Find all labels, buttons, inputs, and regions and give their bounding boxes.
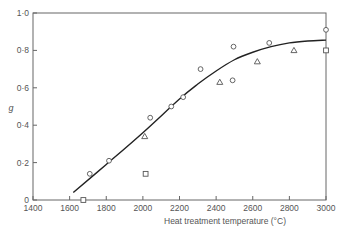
circle-marker bbox=[181, 95, 186, 100]
square-marker bbox=[324, 48, 329, 53]
circle-marker bbox=[169, 104, 174, 109]
triangle-marker bbox=[254, 59, 260, 64]
circle-marker bbox=[198, 67, 203, 72]
triangle-marker bbox=[217, 79, 223, 84]
data-markers bbox=[81, 27, 328, 202]
circle-marker bbox=[324, 27, 329, 32]
fitted-curve bbox=[73, 40, 326, 192]
circle-marker bbox=[231, 44, 236, 49]
circle-marker bbox=[107, 158, 112, 163]
axes bbox=[33, 13, 326, 200]
circle-marker bbox=[148, 115, 153, 120]
circle-marker bbox=[267, 41, 272, 46]
x-axis-label: Heat treatment temperature (°C) bbox=[164, 216, 286, 226]
x-tick-label: 3000 bbox=[317, 203, 336, 213]
y-tick-label: 0 bbox=[24, 195, 29, 205]
y-axis-label: g bbox=[8, 103, 13, 113]
tick-labels: 14001600180020002200240026002800300000·2… bbox=[17, 8, 336, 213]
circle-marker bbox=[230, 78, 235, 83]
x-tick-label: 1800 bbox=[97, 203, 116, 213]
x-tick-label: 2600 bbox=[243, 203, 262, 213]
y-tick-label: 1·0 bbox=[17, 8, 30, 18]
y-tick-label: 0·2 bbox=[17, 158, 30, 168]
triangle-marker bbox=[291, 47, 297, 52]
y-tick-label: 0·4 bbox=[17, 120, 30, 130]
square-marker bbox=[81, 198, 86, 203]
x-tick-label: 2400 bbox=[207, 203, 226, 213]
x-tick-label: 2800 bbox=[280, 203, 299, 213]
fitted-curve-path bbox=[73, 40, 326, 192]
circle-marker bbox=[87, 171, 92, 176]
x-tick-label: 1600 bbox=[60, 203, 79, 213]
chart: 14001600180020002200240026002800300000·2… bbox=[0, 0, 345, 229]
x-tick-label: 2000 bbox=[133, 203, 152, 213]
triangle-marker bbox=[142, 133, 148, 138]
plot-frame bbox=[33, 13, 326, 200]
y-tick-label: 0·8 bbox=[17, 45, 30, 55]
chart-canvas: 14001600180020002200240026002800300000·2… bbox=[0, 0, 345, 229]
y-tick-label: 0·6 bbox=[17, 83, 30, 93]
x-tick-label: 2200 bbox=[170, 203, 189, 213]
square-marker bbox=[143, 171, 148, 176]
